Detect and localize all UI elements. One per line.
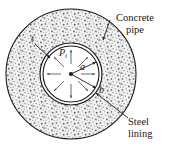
callout-concrete-pipe-line1: Concrete (116, 12, 154, 24)
label-outer-radius: b (99, 84, 104, 95)
callout-concrete-pipe: Concrete pipe (116, 12, 154, 36)
callout-steel-lining-line2: lining (128, 128, 153, 140)
callout-concrete-pipe-line2: pipe (116, 24, 154, 36)
label-internal-pressure: Pi (59, 47, 67, 60)
pipe-cross-section-figure: Concrete pipe Steel lining Pi a b t (0, 0, 170, 155)
label-inner-radius: a (80, 61, 85, 72)
label-thickness: t (31, 33, 34, 44)
label-internal-pressure-subscript: i (65, 52, 67, 60)
callout-steel-lining-line1: Steel (128, 116, 153, 128)
callout-steel-lining: Steel lining (128, 116, 153, 140)
